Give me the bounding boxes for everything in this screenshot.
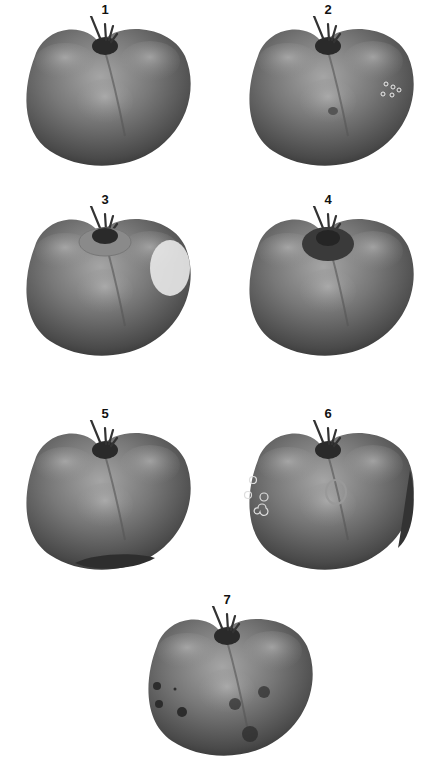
tomato-image xyxy=(228,16,428,176)
tomato-image xyxy=(127,606,327,766)
tomato-image xyxy=(5,420,205,580)
tomato-panel-4: 4 xyxy=(228,192,428,372)
panel-number: 6 xyxy=(228,406,428,421)
tomato-image xyxy=(228,206,428,366)
tomato-image xyxy=(5,16,205,176)
tomato-panel-3: 3 xyxy=(5,192,205,372)
tomato-panel-7: 7 xyxy=(127,592,327,769)
tomato-panel-2: 2 xyxy=(228,2,428,182)
tomato-panel-1: 1 xyxy=(5,2,205,182)
tomato-panel-6: 6 xyxy=(228,406,428,586)
panel-number: 7 xyxy=(127,592,327,607)
tomato-panel-5: 5 xyxy=(5,406,205,586)
panel-number: 3 xyxy=(5,192,205,207)
tomato-image xyxy=(228,420,428,580)
panel-number: 1 xyxy=(5,2,205,17)
panel-number: 2 xyxy=(228,2,428,17)
tomato-image xyxy=(5,206,205,366)
panel-number: 5 xyxy=(5,406,205,421)
panel-number: 4 xyxy=(228,192,428,207)
